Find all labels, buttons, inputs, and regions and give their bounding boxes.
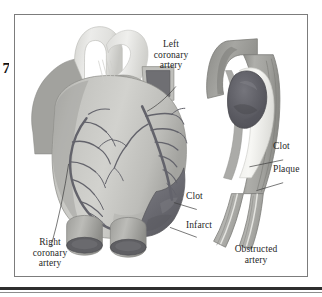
label-left-coronary-artery: Left coronary artery: [139, 39, 203, 71]
label-infarct: Infarct: [186, 220, 238, 231]
label-right-coronary-artery: Right coronary artery: [14, 237, 87, 269]
page-margin-number: 7: [0, 60, 9, 76]
label-plaque: Plaque: [273, 164, 308, 175]
bottom-rule-secondary: [0, 292, 322, 293]
bottom-rule: [0, 287, 322, 290]
figure-frame: Left coronary artery Clot Infarct Right …: [14, 14, 308, 277]
caption-obstructed-artery: Obstructed artery: [217, 244, 295, 265]
label-clot-heart: Clot: [186, 191, 230, 202]
label-clot-artery: Clot: [273, 141, 308, 152]
obstructed-artery-illustration: [207, 39, 280, 249]
